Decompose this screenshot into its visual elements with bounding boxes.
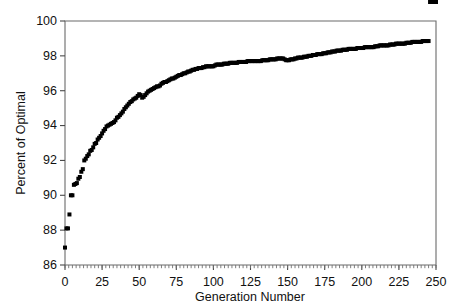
x-tick-label: 175 — [314, 275, 335, 289]
axis-ticks — [60, 21, 436, 270]
scatter-plot: 8688909294969810002550751001251501752002… — [0, 0, 464, 307]
y-tick-label: 96 — [43, 84, 57, 98]
x-tick-label: 75 — [169, 275, 183, 289]
x-tick-label: 200 — [351, 275, 372, 289]
x-tick-label: 25 — [95, 275, 109, 289]
y-tick-label: 86 — [43, 258, 57, 272]
x-tick-label: 0 — [62, 275, 69, 289]
y-tick-label: 94 — [43, 118, 57, 132]
x-tick-label: 100 — [203, 275, 224, 289]
x-tick-label: 150 — [277, 275, 298, 289]
plot-frame — [65, 21, 436, 265]
x-tick-label: 250 — [426, 275, 447, 289]
y-tick-label: 90 — [43, 188, 57, 202]
x-tick-label: 50 — [132, 275, 146, 289]
y-tick-label: 98 — [43, 49, 57, 63]
y-tick-label: 92 — [43, 153, 57, 167]
chart-figure: 8688909294969810002550751001251501752002… — [0, 0, 464, 307]
x-tick-label: 225 — [388, 275, 409, 289]
data-markers — [63, 0, 438, 250]
y-axis-title: Percent of Optimal — [14, 91, 28, 195]
y-tick-label: 100 — [36, 14, 57, 28]
x-axis-title: Generation Number — [195, 290, 305, 304]
x-tick-label: 125 — [240, 275, 261, 289]
axis-tick-labels: 8688909294969810002550751001251501752002… — [36, 14, 446, 289]
y-tick-label: 88 — [43, 223, 57, 237]
